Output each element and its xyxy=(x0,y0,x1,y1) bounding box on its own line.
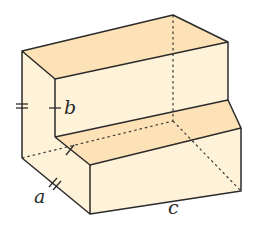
label-b: b xyxy=(64,96,76,118)
label-c: c xyxy=(168,196,179,218)
step-solid-diagram: b a c xyxy=(0,0,259,228)
label-a: a xyxy=(34,185,45,207)
